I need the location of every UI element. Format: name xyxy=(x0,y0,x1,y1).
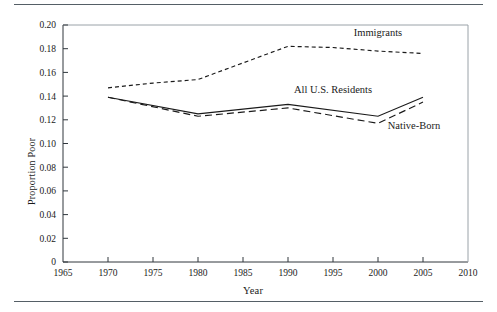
plot-axes xyxy=(63,25,468,262)
y-tick-label: 0.16 xyxy=(39,68,56,78)
x-tick-label: 1980 xyxy=(189,268,208,278)
y-tick-label: 0.12 xyxy=(39,115,56,125)
x-axis-ticks: 1965197019751980198519901995200020052010 xyxy=(54,257,478,278)
x-tick-label: 2010 xyxy=(459,268,478,278)
series-inline-labels: ImmigrantsAll U.S. ResidentsNative-Born xyxy=(294,27,441,132)
x-tick-label: 2000 xyxy=(369,268,388,278)
y-tick-label: 0.04 xyxy=(39,210,56,220)
line-chart-plot: 00.020.040.060.080.100.120.140.160.180.2… xyxy=(0,0,497,312)
x-tick-label: 1985 xyxy=(234,268,253,278)
series-label-all-u-s-residents: All U.S. Residents xyxy=(294,84,372,95)
series-line-immigrants xyxy=(108,46,423,87)
y-tick-label: 0.06 xyxy=(39,186,56,196)
series-label-immigrants: Immigrants xyxy=(354,27,402,38)
x-tick-label: 1965 xyxy=(54,268,73,278)
x-tick-label: 1975 xyxy=(144,268,163,278)
y-tick-label: 0.08 xyxy=(39,163,56,173)
y-tick-label: 0 xyxy=(51,257,56,267)
x-tick-label: 1970 xyxy=(99,268,118,278)
y-tick-label: 0.18 xyxy=(39,44,56,54)
series-line-native-born xyxy=(108,97,423,123)
y-tick-label: 0.02 xyxy=(39,234,56,244)
y-axis-ticks: 00.020.040.060.080.100.120.140.160.180.2… xyxy=(39,20,68,267)
series-label-native-born: Native-Born xyxy=(388,120,441,131)
data-series-group xyxy=(108,46,423,123)
y-tick-label: 0.10 xyxy=(39,139,56,149)
y-tick-label: 0.14 xyxy=(39,92,56,102)
x-tick-label: 2005 xyxy=(414,268,433,278)
x-tick-label: 1995 xyxy=(324,268,343,278)
figure-container: Proportion Poor Year 00.020.040.060.080.… xyxy=(0,0,497,312)
x-tick-label: 1990 xyxy=(279,268,298,278)
y-tick-label: 0.20 xyxy=(39,20,56,30)
